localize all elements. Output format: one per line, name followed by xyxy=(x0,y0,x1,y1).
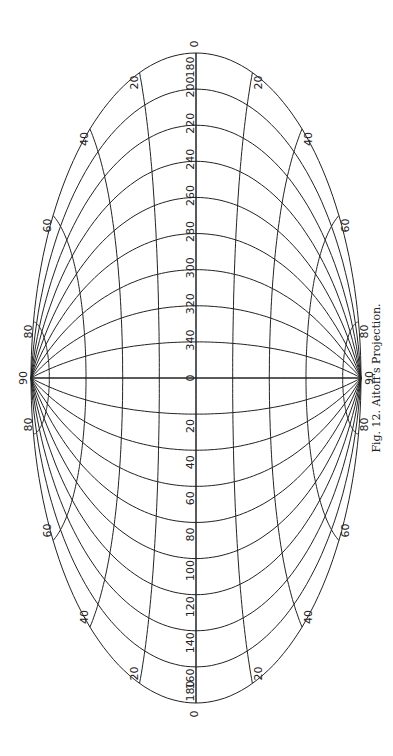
parallel-label: 60 xyxy=(41,524,54,538)
parallel-label: 20 xyxy=(252,666,265,680)
meridian-label: 100 xyxy=(184,560,197,581)
parallel-label: 40 xyxy=(78,132,91,146)
parallel-label: 60 xyxy=(41,219,54,233)
parallel-label: 60 xyxy=(339,524,352,538)
parallel-label: 20 xyxy=(128,76,141,90)
meridian-label: 20 xyxy=(184,419,197,433)
meridian-label: 120 xyxy=(184,596,197,617)
pole-label: 90 xyxy=(17,371,30,385)
axis-end-label: 180 xyxy=(184,681,197,702)
figure-caption: Fig. 12. Aitoff's Projection. xyxy=(370,303,383,452)
parallel-label: 20 xyxy=(252,76,265,90)
meridian-label: 320 xyxy=(184,293,197,314)
parallel-label: 60 xyxy=(339,219,352,233)
meridian-label: 260 xyxy=(184,185,197,206)
parallel-label: 40 xyxy=(302,132,315,146)
parallel-label: 40 xyxy=(302,610,315,624)
meridian-label: 300 xyxy=(184,257,197,278)
parallel-label: 20 xyxy=(128,666,141,680)
axis-end-label: 0 xyxy=(188,41,201,48)
meridian-label: 200 xyxy=(184,77,197,98)
meridian-label: 140 xyxy=(184,632,197,653)
axis-end-label: 0 xyxy=(188,711,201,718)
meridian-label: 280 xyxy=(184,221,197,242)
center-label: 0 xyxy=(184,375,197,382)
meridian-label: 60 xyxy=(184,491,197,505)
parallel-label: 80 xyxy=(22,325,35,339)
meridian-label: 220 xyxy=(184,113,197,134)
meridian-label: 340 xyxy=(184,329,197,350)
meridian-label: 80 xyxy=(184,527,197,541)
axis-end-label: 180 xyxy=(184,57,197,78)
meridian-label: 40 xyxy=(184,455,197,469)
parallel-label: 80 xyxy=(22,417,35,431)
parallel-label: 40 xyxy=(78,610,91,624)
aitoff-projection-diagram: 2002202402602803003203402040608010012014… xyxy=(0,0,393,756)
meridian-label: 240 xyxy=(184,149,197,170)
